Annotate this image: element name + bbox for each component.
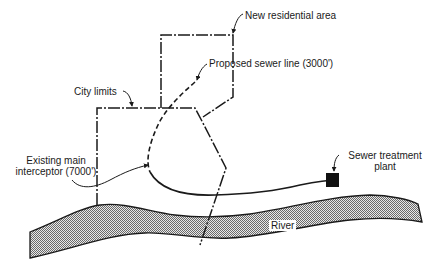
proposed-sewer-line xyxy=(148,82,195,172)
label-city-limits: City limits xyxy=(74,86,117,97)
label-treatment-plant-line1: Sewer treatment xyxy=(340,150,430,161)
leader-proposed-sewer xyxy=(197,64,207,80)
existing-main-interceptor xyxy=(150,172,338,195)
label-existing-interceptor-line2: interceptor (7000') xyxy=(10,166,102,177)
label-sewer-treatment-plant: Sewer treatment plant xyxy=(340,150,430,172)
label-existing-interceptor: Existing main interceptor (7000') xyxy=(10,155,102,177)
sewer-treatment-plant xyxy=(326,173,339,187)
label-existing-interceptor-line1: Existing main xyxy=(10,155,102,166)
leader-treatment-plant xyxy=(334,155,339,171)
diagram-drawing xyxy=(0,0,435,270)
leader-new-residential xyxy=(233,14,243,33)
river xyxy=(30,195,422,258)
label-river: River xyxy=(269,220,296,231)
label-proposed-sewer-line: Proposed sewer line (3000') xyxy=(209,58,333,69)
sewer-layout-diagram: New residential area Proposed sewer line… xyxy=(0,0,435,270)
label-new-residential-area: New residential area xyxy=(245,10,336,21)
leader-city-limits xyxy=(123,91,132,106)
label-treatment-plant-line2: plant xyxy=(340,161,430,172)
